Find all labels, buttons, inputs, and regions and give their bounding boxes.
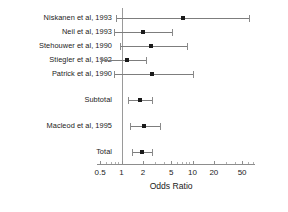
x-axis-line	[97, 164, 255, 165]
ci-lower-cap	[120, 43, 121, 50]
point-estimate-marker	[142, 124, 146, 128]
forest-row	[0, 14, 288, 23]
x-axis-tick	[122, 161, 123, 164]
x-axis-tick-label: 10	[188, 168, 197, 177]
point-estimate-marker	[140, 150, 144, 154]
x-axis-tick	[171, 161, 172, 164]
forest-plot: Niskanen et al, 1993Neil et al, 1993Steh…	[0, 0, 288, 212]
point-estimate-marker	[141, 30, 145, 34]
ci-lower-cap	[132, 149, 133, 156]
ci-lower-cap	[101, 57, 102, 64]
x-axis-title: Odds Ratio	[150, 181, 193, 191]
forest-row	[0, 28, 288, 37]
ci-upper-cap	[152, 97, 153, 104]
forest-row	[0, 122, 288, 131]
x-axis-minor-tick	[177, 162, 178, 164]
x-axis-minor-tick	[182, 162, 183, 164]
x-axis-tick	[214, 161, 215, 164]
x-axis-minor-tick	[115, 162, 116, 164]
x-axis-minor-tick	[186, 162, 187, 164]
ci-lower-cap	[128, 97, 129, 104]
x-axis-minor-tick	[111, 162, 112, 164]
ci-upper-cap	[172, 29, 173, 36]
ci-upper-cap	[187, 43, 188, 50]
x-axis-minor-tick	[226, 162, 227, 164]
ci-upper-cap	[249, 15, 250, 22]
forest-row	[0, 70, 288, 79]
forest-row	[0, 42, 288, 51]
ci-upper-cap	[160, 123, 161, 130]
x-axis-minor-tick	[155, 162, 156, 164]
x-axis-minor-tick	[189, 162, 190, 164]
x-axis-minor-tick	[164, 162, 165, 164]
ci-lower-cap	[114, 29, 115, 36]
x-axis-minor-tick	[235, 162, 236, 164]
ci-lower-cap	[130, 123, 131, 130]
ci-lower-cap	[116, 15, 117, 22]
point-estimate-marker	[138, 98, 142, 102]
x-axis-tick	[143, 161, 144, 164]
ci-upper-cap	[146, 57, 147, 64]
point-estimate-marker	[150, 72, 154, 76]
x-axis-tick-label: 50	[238, 168, 247, 177]
forest-row	[0, 96, 288, 105]
point-estimate-marker	[149, 44, 153, 48]
point-estimate-marker	[181, 16, 185, 20]
x-axis-tick	[100, 161, 101, 164]
x-axis-tick	[193, 161, 194, 164]
ci-upper-cap	[152, 149, 153, 156]
ci-lower-cap	[114, 71, 115, 78]
x-axis-tick-label: 1	[119, 168, 123, 177]
plot-panel: 0.5125102050 Odds Ratio	[0, 0, 288, 212]
x-axis-tick	[242, 161, 243, 164]
x-axis-minor-tick	[248, 162, 249, 164]
ci-upper-cap	[193, 71, 194, 78]
confidence-interval-line	[101, 60, 145, 61]
x-axis-minor-tick	[106, 162, 107, 164]
x-axis-minor-tick	[118, 162, 119, 164]
x-axis-tick-label: 5	[169, 168, 173, 177]
confidence-interval-line	[120, 46, 187, 47]
x-axis-tick-label: 2	[141, 168, 145, 177]
forest-row	[0, 148, 288, 157]
x-axis-minor-tick	[253, 162, 254, 164]
x-axis-tick-label: 0.5	[95, 168, 106, 177]
forest-row	[0, 56, 288, 65]
point-estimate-marker	[125, 58, 129, 62]
x-axis-tick-label: 20	[209, 168, 218, 177]
